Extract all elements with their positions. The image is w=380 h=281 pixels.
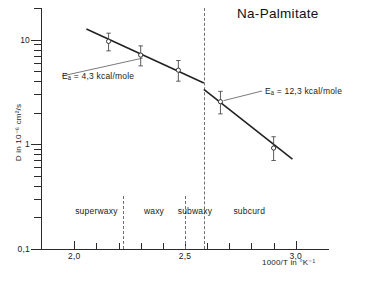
chart-root: Na-Palmitate 1010,12,02,53,0superwaxywax… [0,0,380,281]
y-tick-label: 1 [25,139,30,149]
x-tick-label: 2,0 [68,251,80,261]
x-axis-caption: 1000/T in °K⁻¹ [262,258,315,267]
annotation-activation-energy-high: Eₐ = 12,3 kcal/mole [265,86,342,96]
x-tick-major [74,241,75,250]
phase-divider-1 [185,196,186,249]
phase-label: waxy [144,206,164,216]
y-tick-minor [34,199,41,200]
y-axis-line [41,8,42,250]
y-tick-minor [34,186,41,187]
y-tick-minor [34,8,41,9]
x-tick-minor [119,243,120,250]
y-axis-caption: D in 10⁻⁶ cm²/s [14,85,23,181]
x-tick-minor [141,243,142,250]
annotation-activation-energy-low: Eₐ = 4,3 kcal/mole [62,71,134,81]
x-tick-minor [251,243,252,250]
y-tick-minor [34,81,41,82]
y-tick-minor [34,71,41,72]
chart-title: Na-Palmitate [237,6,319,21]
phase-label: subwaxy [178,206,212,216]
y-tick-label: 10 [20,35,30,45]
y-tick-major [31,144,41,145]
fit-line-1 [204,89,293,159]
y-tick-minor [34,176,41,177]
data-point-2 [176,68,180,72]
y-tick-minor [34,94,41,95]
x-tick-label: 2,5 [179,251,191,261]
y-tick-minor [34,113,41,114]
y-tick-minor [34,50,41,51]
y-tick-minor [34,154,41,155]
y-tick-minor [34,167,41,168]
y-tick-major [31,249,41,250]
data-point-0 [106,39,110,43]
x-tick-minor [163,243,164,250]
x-tick-minor [96,243,97,250]
x-tick-minor [229,243,230,250]
plot-area [0,0,380,281]
y-tick-minor [34,149,41,150]
y-tick-minor [34,44,41,45]
y-tick-minor [34,160,41,161]
x-tick-minor [274,243,275,250]
x-tick-major [296,241,297,250]
data-point-4 [272,146,276,150]
leader-line-high [223,91,262,101]
y-tick-minor [34,56,41,57]
y-tick-minor [34,217,41,218]
y-tick-minor [34,63,41,64]
data-point-3 [218,100,222,104]
data-point-1 [139,53,143,57]
phase-label: subcurd [233,206,265,216]
y-tick-major [31,40,41,41]
x-tick-minor [207,243,208,250]
phase-divider-0 [123,196,124,249]
y-tick-label: 0,1 [18,244,30,254]
phase-label: superwaxy [75,206,117,216]
